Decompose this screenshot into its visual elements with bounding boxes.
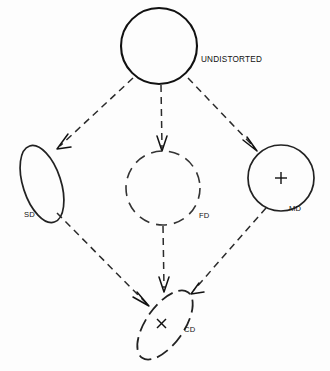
undistorted-label: UNDISTORTED bbox=[201, 55, 262, 64]
fd-shape bbox=[126, 151, 200, 225]
node-md[interactable]: MD bbox=[248, 145, 314, 213]
edge-undistorted-to-md bbox=[188, 78, 257, 151]
edge-line bbox=[163, 226, 164, 288]
node-sd[interactable]: SD bbox=[12, 140, 73, 228]
arrow-head-icon bbox=[191, 283, 204, 294]
fd-label: FD bbox=[199, 211, 210, 220]
edge-line bbox=[194, 208, 266, 290]
cd-label: CD bbox=[184, 325, 196, 334]
md-label: MD bbox=[289, 204, 301, 213]
arrow-head-icon bbox=[243, 137, 257, 151]
edge-line bbox=[57, 213, 146, 303]
edge-undistorted-to-sd bbox=[57, 78, 133, 149]
node-fd[interactable]: FD bbox=[126, 151, 210, 225]
plus-marker-icon bbox=[275, 172, 287, 184]
edge-md-to-cd bbox=[191, 208, 266, 294]
edge-undistorted-to-fd bbox=[157, 85, 167, 151]
arrow-head-icon bbox=[57, 134, 71, 149]
sd-shape bbox=[12, 140, 73, 228]
diagram-canvas: UNDISTORTED SD FD MD bbox=[0, 0, 330, 371]
edge-line bbox=[60, 78, 133, 146]
undistorted-shape bbox=[121, 8, 197, 84]
edge-sd-to-cd bbox=[57, 213, 149, 306]
distortion-diagram: UNDISTORTED SD FD MD bbox=[0, 0, 330, 371]
edge-fd-to-cd bbox=[159, 226, 169, 292]
sd-label: SD bbox=[24, 210, 35, 219]
edge-line bbox=[188, 78, 254, 147]
node-undistorted[interactable]: UNDISTORTED bbox=[121, 8, 262, 84]
edge-line bbox=[161, 85, 162, 148]
cross-marker-icon bbox=[157, 319, 166, 328]
